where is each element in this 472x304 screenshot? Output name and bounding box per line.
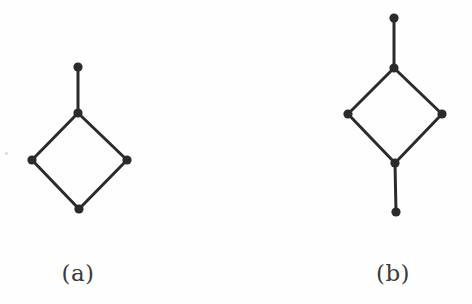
graph-edge <box>32 160 79 209</box>
graph-vertex-left <box>343 109 352 118</box>
panel-caption-a: (a) <box>38 262 118 285</box>
graph-vertex-right <box>437 109 446 118</box>
graph-vertex-bottom <box>74 204 83 213</box>
graph-panel-b <box>343 13 446 216</box>
scan-speck <box>5 152 8 155</box>
graph-vertex-apex-top <box>389 63 398 72</box>
graph-vertex-pendant-bottom <box>391 207 400 216</box>
graph-edge <box>32 113 78 160</box>
graph-vertex-apex-top <box>73 108 82 117</box>
graph-edge <box>348 114 395 163</box>
graph-vertex-pendant-top <box>389 13 398 22</box>
graph-edge <box>79 160 127 209</box>
graph-edge <box>348 68 394 114</box>
graph-edge <box>395 114 442 163</box>
graph-vertex-left <box>27 155 36 164</box>
graph-diagram-canvas <box>0 0 472 304</box>
graph-panel-a <box>27 62 131 213</box>
figure-root: (a) (b) <box>0 0 472 304</box>
graph-vertex-right <box>122 155 131 164</box>
graph-vertex-apex-bottom <box>390 158 399 167</box>
graph-edge <box>78 113 127 160</box>
panel-caption-b: (b) <box>353 262 433 285</box>
graph-edge <box>394 68 442 114</box>
graph-vertex-pendant-top <box>73 62 82 71</box>
graph-edge <box>395 163 396 212</box>
